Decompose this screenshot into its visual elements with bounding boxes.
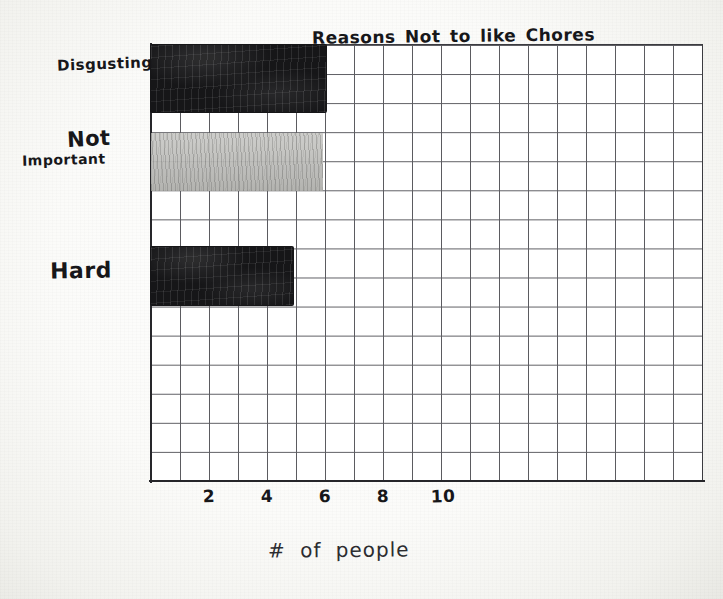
bar-hard bbox=[151, 247, 293, 305]
category-label-not-important-line2: Important bbox=[22, 150, 150, 168]
x-tick-label-10: 10 bbox=[430, 486, 455, 507]
category-label-not-important: Not Important bbox=[22, 128, 150, 167]
category-label-disgusting: Disgusting bbox=[57, 53, 153, 74]
category-label-not-important-line1: Not bbox=[22, 125, 151, 154]
x-tick-label-4: 4 bbox=[260, 486, 273, 506]
x-axis-line bbox=[149, 480, 705, 482]
bar-disgusting bbox=[151, 45, 326, 112]
bar-not-important bbox=[151, 133, 323, 191]
category-label-hard: Hard bbox=[50, 257, 112, 283]
x-tick-label-6: 6 bbox=[318, 486, 331, 506]
x-tick-label-8: 8 bbox=[376, 486, 389, 506]
x-axis-title: # of people bbox=[268, 537, 410, 562]
x-tick-label-2: 2 bbox=[202, 486, 215, 506]
plot-area bbox=[151, 45, 702, 481]
